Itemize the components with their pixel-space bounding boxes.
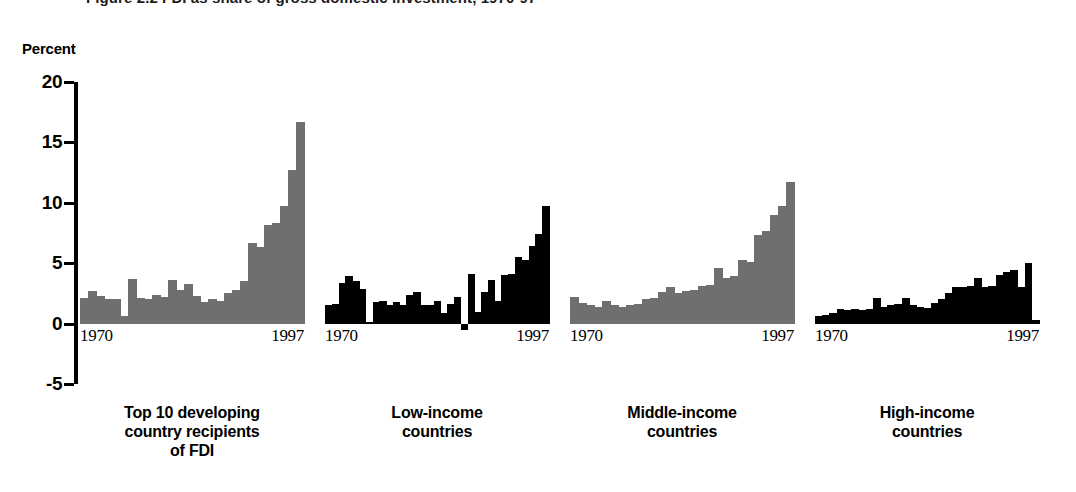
chart-panel-high-income: 19701997High-incomecountries [815,82,1039,384]
bar [542,206,549,323]
y-axis-tick [64,262,74,265]
y-axis-tick [64,141,74,144]
y-axis-unit-label: Percent [22,40,76,57]
x-axis-label-start: 1970 [570,327,603,344]
panel-caption-line: Low-income [325,404,549,423]
y-axis-tick-label: 10 [6,193,62,212]
y-axis-tick-label: 15 [6,132,62,151]
panel-caption-low-income: Low-incomecountries [325,404,549,442]
figure-title: Figure 2.2 FDI as share of gross domesti… [86,0,536,6]
y-axis-tick [64,81,74,84]
panel-caption-line: countries [570,423,794,442]
panel-caption-high-income: High-incomecountries [815,404,1039,442]
y-axis-line [74,82,78,384]
bar [296,122,305,324]
x-axis-label-start: 1970 [325,327,358,344]
y-axis-tick-label: 0 [6,314,62,333]
x-axis-label-end: 1997 [271,327,304,344]
panel-caption-line: countries [325,423,549,442]
y-axis-tick [64,383,74,386]
bar [461,324,468,330]
x-axis-label-end: 1997 [761,327,794,344]
x-axis-label-start: 1970 [80,327,113,344]
chart-panel-top-10-developing: 19701997Top 10 developingcountry recipie… [80,82,304,384]
panel-caption-line: countries [815,423,1039,442]
bar [786,182,795,323]
bar [454,297,461,324]
x-axis-label-end: 1997 [1006,327,1039,344]
x-axis-label-start: 1970 [815,327,848,344]
panel-caption-line: High-income [815,404,1039,423]
bar [359,289,366,324]
bar [1032,320,1040,324]
panel-caption-middle-income: Middle-incomecountries [570,404,794,442]
bar [1025,263,1033,323]
chart-panel-middle-income: 19701997Middle-incomecountries [570,82,794,384]
y-axis-tick-label: -5 [6,374,62,393]
panel-caption-line: Top 10 developing [80,404,304,423]
panel-caption-line: Middle-income [570,404,794,423]
panel-caption-line: of FDI [80,442,304,461]
panel-caption-top-10-developing: Top 10 developingcountry recipientsof FD… [80,404,304,461]
figure-root: Figure 2.2 FDI as share of gross domesti… [0,0,1076,492]
y-axis-tick-label: 5 [6,253,62,272]
x-axis-label-end: 1997 [516,327,549,344]
chart-panel-low-income: 19701997Low-incomecountries [325,82,549,384]
y-axis-tick [64,202,74,205]
y-axis-tick-label: 20 [6,72,62,91]
y-axis-tick [64,323,74,326]
panel-caption-line: country recipients [80,423,304,442]
